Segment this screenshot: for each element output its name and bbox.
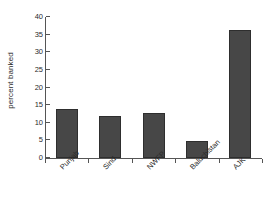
y-axis-tick-mark <box>46 122 50 123</box>
y-axis-tick-mark <box>46 87 50 88</box>
x-axis-tick-mark <box>132 159 133 163</box>
x-axis-tick-mark <box>88 159 89 163</box>
y-axis-tick-label: 20 <box>35 83 43 93</box>
plot-area: 0510152025303540 PunjabSindNWFPBaluchist… <box>0 0 271 211</box>
y-axis-tick-label: 30 <box>35 47 43 57</box>
y-axis-tick: 30 <box>22 47 50 57</box>
x-axis-tick-mark <box>45 159 46 163</box>
y-axis-tick-label: 5 <box>39 135 43 145</box>
y-axis-tick: 35 <box>22 30 50 40</box>
y-axis-tick: 40 <box>22 12 50 22</box>
bar <box>99 116 121 158</box>
y-axis-tick-label: 35 <box>35 30 43 40</box>
x-axis-tick-mark <box>262 159 263 163</box>
bar <box>229 30 251 158</box>
y-axis-tick: 10 <box>22 118 50 128</box>
y-axis-tick: 20 <box>22 83 50 93</box>
y-axis-tick-mark <box>46 157 50 158</box>
y-axis-tick-label: 10 <box>35 118 43 128</box>
y-axis-tick-label: 15 <box>35 100 43 110</box>
bar-chart-figure: percent banked 0510152025303540 PunjabSi… <box>0 0 271 211</box>
x-axis-tick-mark <box>175 159 176 163</box>
y-axis-tick-label: 25 <box>35 65 43 75</box>
y-axis-tick-mark <box>46 69 50 70</box>
y-axis-tick-mark <box>46 34 50 35</box>
y-axis-tick: 15 <box>22 100 50 110</box>
y-axis-tick-label: 0 <box>39 153 43 163</box>
y-axis-tick: 25 <box>22 65 50 75</box>
x-axis-tick-mark <box>219 159 220 163</box>
y-axis-tick: 5 <box>22 135 50 145</box>
y-axis-tick-mark <box>46 51 50 52</box>
y-axis-tick-label: 40 <box>35 12 43 22</box>
y-axis-tick-mark <box>46 104 50 105</box>
y-axis-tick-mark <box>46 16 50 17</box>
y-axis-tick-mark <box>46 139 50 140</box>
